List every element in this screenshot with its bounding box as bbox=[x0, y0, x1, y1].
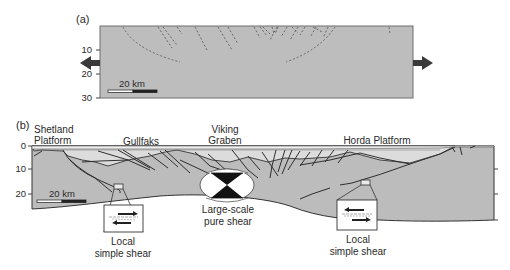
callout-center-line1: Large-scale bbox=[202, 204, 254, 215]
panel-a-tick-20: 20 bbox=[72, 68, 92, 79]
panel-b-tick-10: 10 bbox=[6, 163, 26, 174]
panel-a-tag: (a) bbox=[76, 13, 89, 25]
panel-a-scale-label: 20 km bbox=[119, 78, 145, 89]
callout-left-line2: simple shear bbox=[95, 248, 152, 259]
callout-center-line2: pure shear bbox=[204, 216, 252, 227]
label-horda-platform: Horda Platform bbox=[343, 135, 410, 146]
callout-left-line1: Local bbox=[111, 236, 135, 247]
arrow-right-icon bbox=[413, 56, 433, 70]
label-shetland-1: Shetland bbox=[34, 124, 73, 135]
panel-a-y-axis bbox=[96, 50, 100, 98]
panel-b-tick-0: 0 bbox=[6, 140, 26, 151]
panel-b-scale-bar bbox=[37, 200, 86, 203]
panel-b-scale-label: 20 km bbox=[49, 188, 75, 199]
label-gullfaks: Gullfaks bbox=[123, 136, 159, 147]
figure-canvas bbox=[0, 0, 510, 270]
callout-right-line2: simple shear bbox=[330, 246, 387, 257]
callout-right-line1: Local bbox=[346, 234, 370, 245]
panel-a-tick-10: 10 bbox=[72, 44, 92, 55]
panel-a-scale-bar bbox=[108, 90, 157, 93]
panel-b-tick-20: 20 bbox=[6, 188, 26, 199]
panel-b-tag: (b) bbox=[16, 119, 29, 131]
label-viking-2: Graben bbox=[208, 135, 241, 146]
panel-a-tick-30: 30 bbox=[72, 92, 92, 103]
panel-a-block bbox=[100, 26, 413, 98]
label-viking-1: Viking bbox=[211, 124, 238, 135]
label-shetland-2: Platform bbox=[34, 135, 71, 146]
